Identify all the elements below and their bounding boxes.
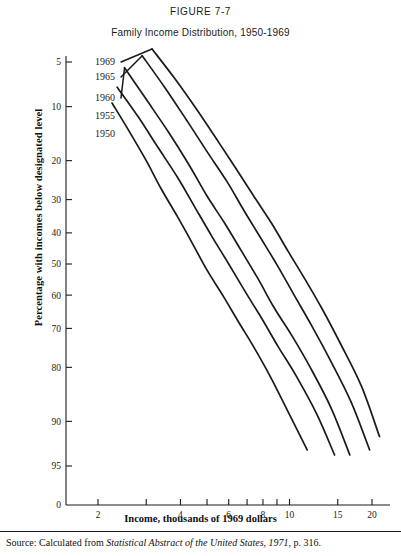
y-tick-label-40: 40 <box>52 228 62 238</box>
series-leader-1965 <box>121 56 142 77</box>
y-tick-label-60: 60 <box>52 291 62 301</box>
y-axis-title: Percentage with incomes below designated… <box>33 68 44 368</box>
data-curves <box>112 49 379 455</box>
origin-zero-label: 0 <box>56 500 61 510</box>
curve-1955 <box>117 87 334 455</box>
y-tick-label-30: 30 <box>52 195 62 205</box>
source-suffix: , p. 316. <box>289 537 322 548</box>
series-leader-1960 <box>121 68 125 98</box>
axis-lines <box>66 56 390 505</box>
series-label-1960: 1960 <box>95 92 115 103</box>
source-note: Source: Calculated from Statistical Abst… <box>6 537 398 548</box>
curve-1965 <box>142 56 369 450</box>
series-label-1950: 1950 <box>95 128 115 139</box>
series-leader-1969 <box>121 49 152 62</box>
y-tick-label-20: 20 <box>52 156 62 166</box>
chart-plot: 510203040506070809095 2468101520 1950195… <box>0 0 401 556</box>
figure-page: FIGURE 7-7 Family Income Distribution, 1… <box>0 0 401 556</box>
curve-1960 <box>125 68 350 455</box>
y-tick-label-70: 70 <box>52 324 62 334</box>
footer-rule <box>0 531 401 532</box>
y-tick-label-50: 50 <box>52 259 62 269</box>
y-tick-label-90: 90 <box>52 417 62 427</box>
series-label-1969: 1969 <box>95 56 115 67</box>
origin-label: 0 <box>56 500 61 510</box>
source-italic-title: Statistical Abstract of the United State… <box>106 537 288 548</box>
series-label-1965: 1965 <box>95 71 115 82</box>
series-label-1955: 1955 <box>95 110 115 121</box>
y-tick-label-5: 5 <box>56 57 61 67</box>
y-tick-label-10: 10 <box>52 102 62 112</box>
y-axis-ticks: 510203040506070809095 <box>52 57 73 471</box>
curve-1969 <box>152 49 379 437</box>
y-tick-label-95: 95 <box>52 461 62 471</box>
x-axis-title: Income, thousands of 1969 dollars <box>0 513 401 524</box>
source-prefix: Source: Calculated from <box>6 537 106 548</box>
y-tick-label-80: 80 <box>52 363 62 373</box>
